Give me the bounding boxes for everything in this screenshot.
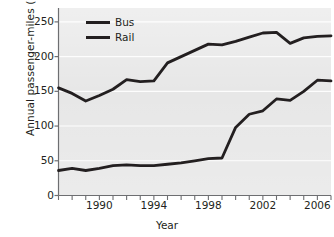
x-axis-label: Year xyxy=(0,219,334,231)
x-tick-label: 2002 xyxy=(243,200,283,211)
chart-figure: Annual passenger-miles (millions) 050100… xyxy=(0,0,334,237)
x-tick-label: 1998 xyxy=(188,200,228,211)
x-tick-label: 1994 xyxy=(134,200,174,211)
x-tick-label: 2006 xyxy=(297,200,334,211)
legend-label-rail: Rail xyxy=(115,32,134,43)
legend-label-bus: Bus xyxy=(115,17,134,28)
x-tick-label: 1990 xyxy=(79,200,119,211)
